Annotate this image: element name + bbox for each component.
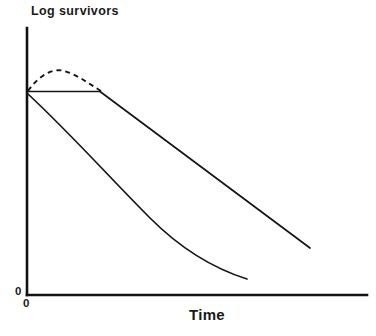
x-axis-origin-tick-label: 0 (23, 297, 29, 309)
y-axis-label: Log survivors (31, 4, 119, 18)
curve-exponential (28, 94, 247, 279)
curve-activation-dashed (28, 70, 101, 91)
y-axis-origin-tick-label: 0 (15, 285, 21, 297)
survival-curve-figure: Log survivors Time 0 0 (0, 0, 376, 336)
x-axis-label: Time (189, 306, 225, 323)
curve-shouldered (28, 92, 310, 249)
plot-area (0, 0, 376, 336)
